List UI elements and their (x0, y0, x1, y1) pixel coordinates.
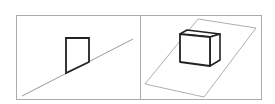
figure-canvas (0, 0, 275, 104)
cube-side-face (210, 34, 220, 66)
cube (180, 30, 220, 66)
quadrilateral-shape (66, 38, 89, 73)
left-panel (17, 16, 141, 100)
right-panel (141, 16, 262, 100)
cube-front-face (180, 34, 210, 66)
